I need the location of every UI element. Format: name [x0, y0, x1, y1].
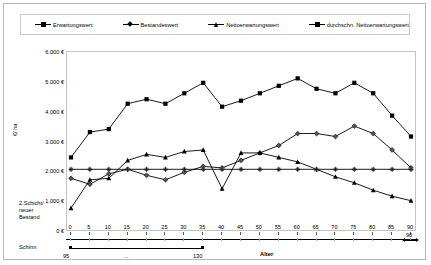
chart-frame: Erwartungswert Bestandeswert Nettoerwart…	[3, 3, 426, 260]
x-tick-label: 25	[161, 224, 167, 230]
legend-label: Bestandeswert	[141, 22, 179, 28]
x-tick-lower	[70, 238, 71, 241]
legend-item-bestandeswert: Bestandeswert	[123, 15, 179, 34]
series-nettoerwartungswert	[69, 147, 414, 210]
schirm-start-label: 95	[63, 253, 69, 259]
x-tick-label: 20	[142, 224, 148, 230]
legend-item-nettoerwartungswert: Nettoerwartungswert	[208, 15, 279, 34]
x-tick-label: 10	[105, 224, 111, 230]
x-tick-label: 90	[407, 224, 413, 230]
x-tick	[278, 232, 279, 235]
right-arrow-head	[416, 238, 419, 242]
x-tick-lower	[391, 238, 392, 241]
diamond-marker-icon	[123, 21, 139, 29]
x-tick-lower	[202, 238, 203, 241]
x-tick-label: 0	[68, 224, 71, 230]
x-tick-lower	[127, 238, 128, 241]
x-tick-label: 55	[275, 224, 281, 230]
x-tick-lower	[221, 238, 222, 241]
x-tick-lower	[353, 238, 354, 241]
x-tick	[146, 232, 147, 235]
schirm-range-cap	[69, 246, 72, 249]
x-tick-label: 35	[199, 224, 205, 230]
y-tick-label: 6.000 €	[45, 49, 64, 55]
schirm-label: Schirm	[19, 244, 36, 251]
series-canvas	[67, 52, 415, 230]
x-tick	[221, 232, 222, 235]
x-tick	[164, 232, 165, 235]
x-tick-label: 75	[350, 224, 356, 230]
x-tick-lower	[240, 238, 241, 241]
x-tick	[259, 232, 260, 235]
x-tick-label: 30	[180, 224, 186, 230]
x-tick-lower	[297, 238, 298, 241]
y-tick-label: 3.000 €	[45, 139, 64, 145]
x-tick	[240, 232, 241, 235]
schirm-axis: 95 ... 130 90	[66, 247, 416, 263]
x-tick-label: 65	[312, 224, 318, 230]
x-tick-label: 40	[218, 224, 224, 230]
plot-area	[66, 51, 416, 231]
x-tick	[183, 232, 184, 235]
triangle-marker-icon	[208, 21, 224, 29]
x-tick-label: 15	[124, 224, 130, 230]
asterisk-marker-icon	[309, 21, 325, 29]
schirm-dots-label: ...	[124, 253, 129, 259]
schirm-right-label: 90	[406, 232, 412, 238]
schirm-range-line	[70, 248, 202, 249]
series-erwartungswert	[69, 76, 413, 159]
schirm-range-cap	[201, 246, 204, 249]
x-tick-label: 80	[369, 224, 375, 230]
x-tick-label: 70	[331, 224, 337, 230]
x-tick	[316, 232, 317, 235]
legend-item-durchschn-nettoerwartungswert: durchschn. Nettoerwartungswert	[309, 15, 409, 34]
x-axis: 051015202530354045505560657075808590	[66, 231, 416, 232]
right-arrow-head	[402, 238, 405, 242]
x-tick-lower	[316, 238, 317, 241]
x-tick-lower	[334, 238, 335, 241]
x-tick	[353, 232, 354, 235]
x-axis-line	[66, 239, 416, 240]
x-tick	[202, 232, 203, 235]
x-tick	[127, 232, 128, 235]
x-tick-lower	[183, 238, 184, 241]
second-layer-label-line3: Bestand	[19, 214, 40, 221]
x-tick-lower	[108, 238, 109, 241]
x-tick-lower	[146, 238, 147, 241]
x-tick-label: 85	[388, 224, 394, 230]
legend-label: durchschn. Nettoerwartungswert	[327, 22, 409, 28]
x-tick-lower	[278, 238, 279, 241]
x-tick-label: 50	[256, 224, 262, 230]
x-tick-label: 60	[294, 224, 300, 230]
x-tick-label: 45	[237, 224, 243, 230]
y-tick-label: 0 €	[56, 228, 64, 234]
x-tick	[70, 232, 71, 235]
x-tick	[89, 232, 90, 235]
y-tick-label: 4.000 €	[45, 109, 64, 115]
x-tick	[334, 232, 335, 235]
x-tick-lower	[164, 238, 165, 241]
x-tick-lower	[372, 238, 373, 241]
x-tick	[108, 232, 109, 235]
legend-label: Nettoerwartungswert	[226, 22, 279, 28]
x-tick-lower	[259, 238, 260, 241]
x-tick-lower	[89, 238, 90, 241]
schirm-end-label: 130	[193, 253, 202, 259]
y-axis-ticks: 0 €1.000 €2.000 €3.000 €4.000 €5.000 €6.…	[18, 4, 64, 265]
y-tick-label: 5.000 €	[45, 79, 64, 85]
x-tick	[391, 232, 392, 235]
x-tick-label: 5	[87, 224, 90, 230]
y-tick-label: 1.000 €	[45, 198, 64, 204]
chart-legend: Erwartungswert Bestandeswert Nettoerwart…	[20, 14, 410, 35]
series-bestandeswert	[69, 124, 414, 187]
y-tick-label: 2.000 €	[45, 168, 64, 174]
x-tick	[297, 232, 298, 235]
x-tick	[372, 232, 373, 235]
